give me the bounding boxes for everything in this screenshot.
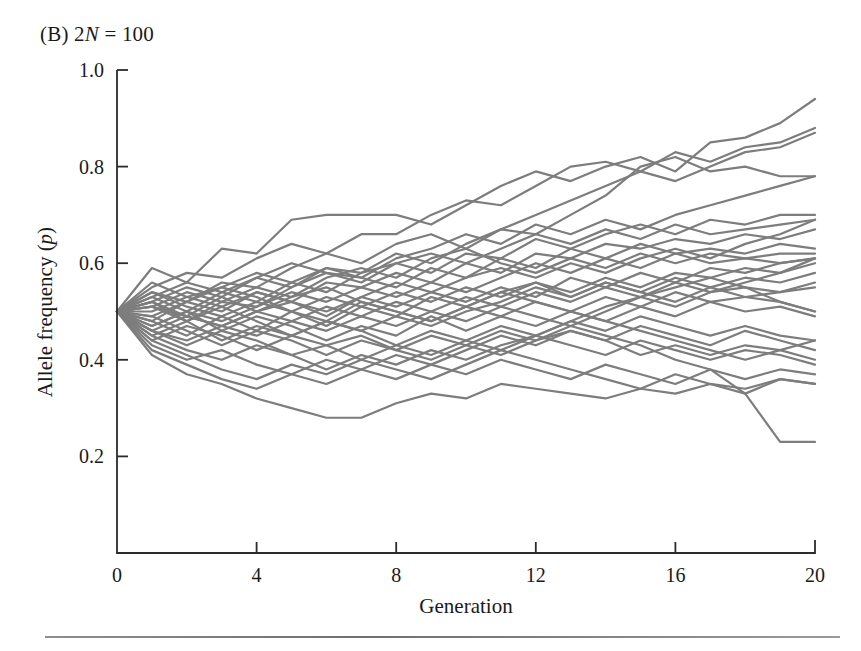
x-axis-tick-label: 0 bbox=[112, 564, 122, 586]
trajectory-line bbox=[117, 273, 815, 326]
y-axis-title-italic-p: p bbox=[33, 234, 57, 247]
x-axis-tick-label: 8 bbox=[391, 564, 401, 586]
trajectory-line bbox=[117, 263, 815, 316]
y-axis-title-suffix: ) bbox=[33, 227, 57, 234]
y-axis-tick-label: 0.4 bbox=[79, 349, 104, 371]
y-axis-tick-label: 0.2 bbox=[79, 445, 104, 467]
y-axis-title-prefix: Allele frequency ( bbox=[33, 244, 57, 397]
trajectory-line bbox=[117, 312, 815, 384]
x-axis-tick-label: 12 bbox=[526, 564, 546, 586]
x-axis-tick-label: 16 bbox=[665, 564, 685, 586]
trajectory-line bbox=[117, 283, 815, 336]
drift-trajectory-chart: 0.20.40.60.81.0 048121620 Generation All… bbox=[0, 0, 861, 651]
y-axis-tick-label: 0.6 bbox=[79, 252, 104, 274]
y-axis-tick-label: 0.8 bbox=[79, 156, 104, 178]
x-axis-tick-label: 4 bbox=[252, 564, 262, 586]
figure-root: (B) 2N = 100 0.20.40.60.81.0 048121620 G… bbox=[0, 0, 861, 651]
trajectory-lines-group bbox=[117, 99, 815, 442]
y-axis-tick-labels: 0.20.40.60.81.0 bbox=[79, 59, 104, 467]
x-axis-title: Generation bbox=[419, 594, 513, 618]
chart-plot-area: 0.20.40.60.81.0 048121620 Generation All… bbox=[0, 0, 861, 651]
x-axis-tick-label: 20 bbox=[805, 564, 825, 586]
x-axis-tick-labels: 048121620 bbox=[112, 564, 825, 586]
trajectory-line bbox=[117, 312, 815, 365]
trajectory-line bbox=[117, 133, 815, 312]
y-axis-title: Allele frequency (p) bbox=[33, 227, 57, 397]
trajectory-line bbox=[117, 312, 815, 394]
figure-bottom-rule bbox=[45, 636, 840, 638]
x-axis-ticks bbox=[257, 542, 676, 553]
y-axis-ticks bbox=[117, 70, 128, 456]
y-axis-tick-label: 1.0 bbox=[79, 59, 104, 81]
